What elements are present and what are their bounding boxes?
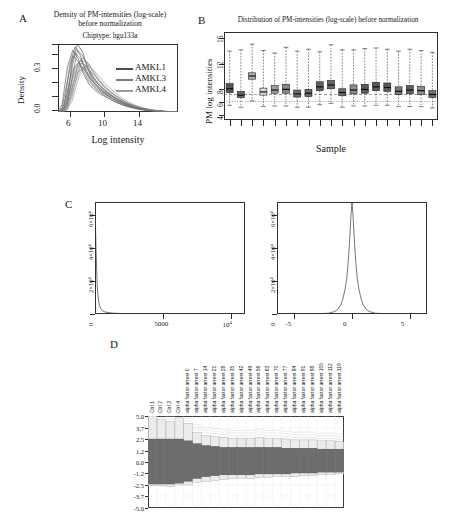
panel-c-left-curve (95, 202, 245, 314)
panel-d-ytickmark (145, 473, 148, 474)
panel-d-column-label: Ctrl 4 (175, 401, 181, 413)
panel-b-ytick-label: 4 (216, 116, 225, 120)
panel-d-ytick-label: 0.0 (124, 459, 144, 466)
panel-d-ytickmark (145, 416, 148, 417)
panel-b-xtickmark (230, 120, 231, 126)
panel-c-ytick-label: 0 (87, 323, 94, 326)
panel-b-xtickmark (275, 120, 276, 126)
panel-d-letter: D (110, 338, 118, 350)
panel-d-column-label: alpha factor arrest 112 (327, 363, 333, 413)
panel-b-ylabel: PM log intensities (204, 58, 214, 124)
panel-d-area-chart (148, 416, 344, 508)
panel-d-column-label: alpha factor arrest 14 (202, 366, 208, 413)
panel-c-xtick-label: 5000 (154, 320, 168, 328)
panel-a-xtickmark (104, 112, 105, 117)
panel-a-legend-swatch (116, 68, 133, 70)
panel-d-ytickmark (145, 451, 148, 452)
panel-a-legend-label: AMKL1 (135, 62, 166, 72)
panel-b-xlabel: Sample (224, 143, 438, 154)
panel-d-column-label: alpha factor arrest 70 (273, 366, 279, 413)
panel-a-xtick-6: 6 (66, 118, 71, 128)
figure-canvas: A Density of PM-intensities (log-scale) … (0, 0, 451, 522)
panel-d-column-label: alpha factor arrest 0 (184, 369, 190, 413)
panel-d-ytickmark (145, 428, 148, 429)
panel-b-title: Distribution of PM-intensities (log-scal… (210, 16, 446, 24)
panel-b-xtickmark (252, 120, 253, 126)
panel-b-ytick-label: 6 (216, 103, 225, 107)
panel-d-ytickmark (145, 439, 148, 440)
panel-b-xtickmark (410, 120, 411, 126)
panel-d-column-label: alpha factor arrest 119 (336, 363, 342, 413)
panel-d-ytickmark (145, 485, 148, 486)
panel-b-xtickmark (387, 120, 388, 126)
panel-a-ytick-0: 0.0 (33, 104, 42, 113)
panel-a-legend-label: AMKL4 (135, 84, 166, 94)
panel-d-ytick-label: -3.7 (124, 493, 144, 500)
panel-d-column-label: alpha factor arrest 56 (255, 366, 261, 413)
panel-d-column-label: Ctrl 1 (149, 401, 155, 413)
panel-b-xtickmark (399, 120, 400, 126)
panel-d-ytick-label: -1.2 (124, 470, 144, 477)
panel-c-ytick-label: 0 (269, 323, 276, 326)
panel-c-xtick-label: 104 (222, 320, 232, 329)
panel-c: C 02×10⁴4×10⁴6×10⁴5000104 02×10⁴4×10⁴6×1… (55, 188, 445, 338)
panel-a-xtickmark (139, 112, 140, 117)
panel-c-xtick-label: 0 (343, 320, 347, 328)
panel-b: B Distribution of PM-intensities (log-sc… (196, 0, 451, 185)
panel-a-xtickmark (70, 112, 71, 117)
panel-d-ytickmark (145, 462, 148, 463)
panel-b-xtickmark (354, 120, 355, 126)
panel-b-xtickmark (286, 120, 287, 126)
panel-b-xtickmark (241, 120, 242, 126)
panel-c-xtickmark (352, 314, 353, 319)
panel-c-xtick-label: -5 (285, 320, 291, 328)
panel-a-xtick-14: 14 (133, 118, 142, 128)
panel-d-ytick-label: -5.0 (124, 505, 144, 512)
panel-a-legend-label: AMKL3 (135, 73, 166, 83)
panel-b-letter: B (198, 14, 206, 26)
panel-c-xtickmark (294, 314, 295, 319)
panel-d-ytick-label: 2.5 (124, 436, 144, 443)
panel-d-column-label: alpha factor arrest 63 (264, 366, 270, 413)
panel-a-subtitle: Chiptype: hgu133a (26, 32, 194, 40)
panel-a-ylabel: Density (16, 76, 26, 104)
panel-d-ytick-label: -2.5 (124, 482, 144, 489)
panel-d-ytick-label: 5.0 (124, 413, 144, 420)
panel-d-ytick-label: 1.2 (124, 448, 144, 455)
panel-a-legend-swatch (116, 90, 133, 92)
panel-d-ytickmark (145, 496, 148, 497)
panel-b-boxplot (224, 32, 438, 120)
panel-b-ytick-label: 16 (216, 36, 225, 44)
panel-d-column-label: Ctrl 2 (157, 401, 163, 413)
panel-a-legend-item: AMKL4 (116, 85, 186, 96)
panel-d-column-label: alpha factor arrest 77 (282, 366, 288, 413)
panel-d-column-label: alpha factor arrest 91 (300, 366, 306, 413)
panel-d-ytick-label: 3.7 (124, 425, 144, 432)
panel-a-xlabel: Log intensity (58, 134, 178, 145)
panel-a-xtick-10: 10 (98, 118, 107, 128)
panel-a-title-line2: before normalization (26, 20, 194, 29)
panel-c-ytick-label: 4×10⁴ (87, 244, 94, 260)
panel-c-ytick-label: 2×10⁴ (269, 277, 276, 293)
panel-b-xtickmark (376, 120, 377, 126)
panel-c-ytickmark (272, 314, 277, 315)
panel-a: A Density of PM-intensities (log-scale) … (0, 0, 200, 175)
panel-b-ytick-label: 8 (216, 91, 225, 95)
panel-c-ytick-label: 6×10⁴ (87, 212, 94, 228)
panel-b-xtickmark (365, 120, 366, 126)
panel-d-column-label: alpha factor arrest 49 (247, 366, 253, 413)
panel-c-xtickmark (410, 314, 411, 319)
panel-b-xtickmark (432, 120, 433, 126)
panel-b-xtickmark (331, 120, 332, 126)
panel-b-xtickmark (309, 120, 310, 126)
panel-a-ytick-1: 0.3 (33, 63, 42, 72)
panel-d-column-label: alpha factor arrest 21 (211, 366, 217, 413)
panel-c-right-curve (277, 202, 427, 314)
panel-b-xtickmark (421, 120, 422, 126)
panel-c-ytick-label: 6×10⁴ (269, 212, 276, 228)
panel-d-column-label: alpha factor arrest 42 (238, 366, 244, 413)
panel-b-xtickmark (320, 120, 321, 126)
panel-b-xtickmark (263, 120, 264, 126)
panel-b-xtickmark (342, 120, 343, 126)
panel-b-xtickmark (297, 120, 298, 126)
